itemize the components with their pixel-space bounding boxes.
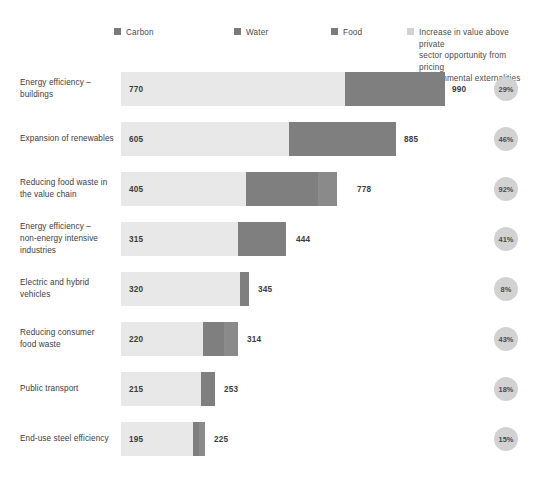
- bar-segment-base: [121, 72, 345, 106]
- table-row: Electric and hybrid vehicles 320 345 8%: [0, 264, 535, 314]
- chart-legend: Carbon Water Food Increase in value abov…: [0, 0, 535, 64]
- status-badge: 15%: [494, 427, 518, 451]
- table-row: Energy efficiency – non-energy intensive…: [0, 214, 535, 264]
- legend-item-carbon: Carbon: [114, 27, 154, 39]
- bar-base-value: 320: [129, 285, 143, 294]
- bar-base-value: 195: [129, 435, 143, 444]
- status-badge: 92%: [494, 177, 518, 201]
- bar-total-value: 314: [247, 335, 261, 344]
- status-badge: 18%: [494, 377, 518, 401]
- legend-item-food: Food: [331, 27, 362, 39]
- bar-segment-carbon: [240, 272, 249, 306]
- bar-segment-base: [121, 122, 289, 156]
- bar-segment-divider: [318, 172, 319, 206]
- legend-swatch-food-icon: [331, 28, 338, 35]
- bar-segment-water: [318, 172, 337, 206]
- bar-total-value: 778: [357, 185, 371, 194]
- legend-swatch-externalities-icon: [407, 28, 414, 35]
- bar-total-value: 345: [258, 285, 272, 294]
- row-label: Energy efficiency – non-energy intensive…: [20, 221, 116, 258]
- bar-base-value: 605: [129, 135, 143, 144]
- bar-total-value: 990: [452, 85, 466, 94]
- row-label: End-use steel efficiency: [20, 433, 116, 445]
- bar-base-value: 315: [129, 235, 143, 244]
- table-row: Reducing consumer food waste 220 314 43%: [0, 314, 535, 364]
- row-label: Electric and hybrid vehicles: [20, 277, 116, 301]
- bar-segment-divider: [224, 322, 225, 356]
- bar-segment-divider: [199, 422, 200, 456]
- legend-label-food: Food: [343, 27, 362, 39]
- bar-base-value: 215: [129, 385, 143, 394]
- bar-segment-carbon: [345, 72, 445, 106]
- legend-item-water: Water: [234, 27, 268, 39]
- bar-track: 195: [121, 422, 205, 456]
- table-row: Public transport 215 253 18%: [0, 364, 535, 414]
- legend-swatch-carbon-icon: [114, 28, 121, 35]
- chart-rows: Energy efficiency – buildings 770 990 29…: [0, 64, 535, 464]
- status-badge: 43%: [494, 327, 518, 351]
- bar-track: 605: [121, 122, 396, 156]
- row-label: Energy efficiency – buildings: [20, 77, 116, 101]
- bar-segment-carbon: [201, 372, 215, 406]
- bar-total-value: 225: [214, 435, 228, 444]
- bar-track: 220: [121, 322, 238, 356]
- row-label: Reducing consumer food waste: [20, 327, 116, 351]
- status-badge: 46%: [494, 127, 518, 151]
- table-row: Energy efficiency – buildings 770 990 29…: [0, 64, 535, 114]
- bar-total-value: 253: [224, 385, 238, 394]
- bar-segment-carbon: [246, 172, 318, 206]
- bar-track: 770: [121, 72, 445, 106]
- bar-track: 215: [121, 372, 215, 406]
- bar-segment-water: [224, 322, 238, 356]
- bar-segment-carbon: [238, 222, 286, 256]
- bar-total-value: 444: [296, 235, 310, 244]
- row-label: Reducing food waste in the value chain: [20, 177, 116, 201]
- stacked-bar-chart: Carbon Water Food Increase in value abov…: [0, 0, 535, 483]
- bar-base-value: 405: [129, 185, 143, 194]
- bar-base-value: 770: [129, 85, 143, 94]
- bar-segment-carbon: [289, 122, 396, 156]
- bar-base-value: 220: [129, 335, 143, 344]
- bar-track: 405: [121, 172, 337, 206]
- table-row: Reducing food waste in the value chain 4…: [0, 164, 535, 214]
- row-label: Public transport: [20, 383, 116, 395]
- status-badge: 8%: [494, 277, 518, 301]
- bar-total-value: 885: [404, 135, 418, 144]
- table-row: Expansion of renewables 605 885 46%: [0, 114, 535, 164]
- bar-segment-carbon: [203, 322, 224, 356]
- legend-label-water: Water: [246, 27, 268, 39]
- bar-track: 315: [121, 222, 286, 256]
- status-badge: 29%: [494, 77, 518, 101]
- legend-swatch-water-icon: [234, 28, 241, 35]
- row-label: Expansion of renewables: [20, 133, 116, 145]
- table-row: End-use steel efficiency 195 225 15%: [0, 414, 535, 464]
- legend-label-carbon: Carbon: [126, 27, 154, 39]
- bar-track: 320: [121, 272, 249, 306]
- status-badge: 41%: [494, 227, 518, 251]
